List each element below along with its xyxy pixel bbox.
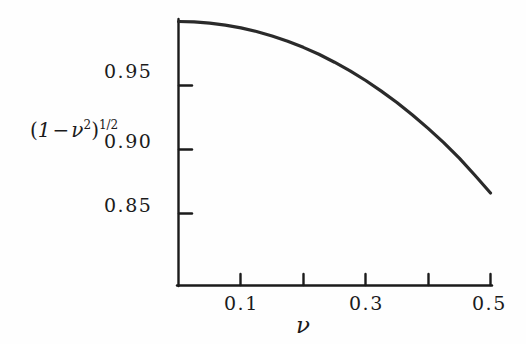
y-label-exponent-two: 2 <box>83 118 91 132</box>
x-tick-label-05: 0.5 <box>472 292 507 314</box>
y-label-exponent-half: 1/2 <box>99 118 118 132</box>
chart-figure: 0.95 0.90 0.85 0.1 0.3 0.5 (1−ν2)1/2 ν <box>0 0 526 344</box>
y-label-paren-close: ) <box>91 118 99 142</box>
data-curve <box>179 22 491 194</box>
y-label-paren-open: ( <box>30 118 38 142</box>
y-tick-label-095: 0.95 <box>104 60 152 82</box>
x-tick-label-01: 0.1 <box>224 292 259 314</box>
x-axis-title: ν <box>296 312 310 338</box>
y-axis-label: (1−ν2)1/2 <box>30 118 118 142</box>
y-label-one: 1 <box>38 118 51 142</box>
y-tick-label-085: 0.85 <box>104 194 152 216</box>
y-label-minus: − <box>53 118 70 142</box>
plot-area <box>0 0 526 344</box>
y-label-nu: ν <box>71 118 83 142</box>
x-tick-label-03: 0.3 <box>349 292 384 314</box>
